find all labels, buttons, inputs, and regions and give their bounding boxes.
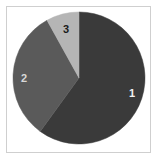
pie-chart-screenshot: 1 2 3 [0,0,159,160]
pie-slice-label-2: 2 [21,73,27,84]
pie-slice-label-3: 3 [63,24,69,35]
pie-slice-label-1: 1 [129,88,135,99]
pie-chart-plot-area: 1 2 3 [0,0,159,160]
